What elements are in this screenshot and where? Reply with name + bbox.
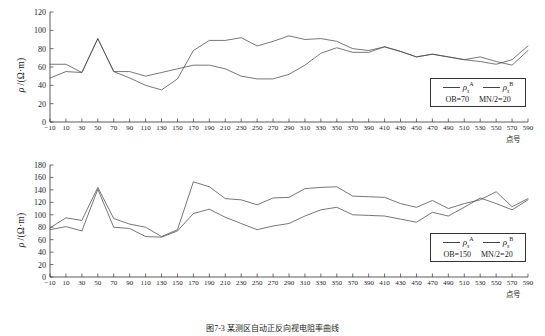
legend-item-rho-b-bottom: ρsB xyxy=(483,236,514,249)
series-line-ρsB xyxy=(50,189,528,237)
x-tick-label: 10 xyxy=(62,124,69,132)
legend-keys-bottom: ρsA ρsB xyxy=(431,234,525,249)
x-tick-label: 470 xyxy=(427,279,438,287)
x-tick-label: 510 xyxy=(459,279,470,287)
legend-conditions-bottom: OB=150 MN/2=20 xyxy=(431,249,525,261)
x-tick-label: 270 xyxy=(268,124,279,132)
x-tick-label: 10 xyxy=(62,279,69,287)
x-tick-label: 570 xyxy=(507,279,518,287)
series-line-ρsA xyxy=(50,182,528,237)
x-tick-label: 550 xyxy=(491,279,502,287)
legend-label-b-bottom: ρsB xyxy=(503,236,514,249)
legend-label-b-top: ρsB xyxy=(503,81,514,94)
legend-condition-mn-top: MN/2=20 xyxy=(479,95,511,104)
x-tick-label: 350 xyxy=(332,124,343,132)
legend-line-icon-b-bottom xyxy=(483,242,500,243)
legend-label-a-bottom: ρsA xyxy=(463,236,474,249)
x-tick-label: 570 xyxy=(507,124,518,132)
x-tick-label: 170 xyxy=(188,279,199,287)
legend-label-a-top: ρsA xyxy=(463,81,474,94)
legend-item-rho-b-top: ρsB xyxy=(483,81,514,94)
legend-condition-ob-bottom: OB=150 xyxy=(443,250,471,259)
series-line-ρsA xyxy=(50,39,528,79)
x-tick-label: 350 xyxy=(332,279,343,287)
x-tick-label: 430 xyxy=(395,124,406,132)
x-tick-label: 550 xyxy=(491,124,502,132)
x-tick-label: 530 xyxy=(475,124,486,132)
x-tick-label: −10 xyxy=(45,279,56,287)
x-tick-label: 250 xyxy=(252,124,263,132)
legend-keys-top: ρsA ρsB xyxy=(431,79,525,94)
legend-item-rho-a-top: ρsA xyxy=(443,81,474,94)
x-tick-label: 90 xyxy=(126,279,133,287)
x-tick-label: 190 xyxy=(204,279,215,287)
x-axis-label-bottom: 点号 xyxy=(506,288,520,299)
x-tick-label: 50 xyxy=(94,279,101,287)
x-tick-label: 50 xyxy=(94,124,101,132)
x-tick-label: 490 xyxy=(443,124,454,132)
x-tick-label: 370 xyxy=(347,124,358,132)
x-tick-label: 430 xyxy=(395,279,406,287)
legend-conditions-top: OB=70 MN/2=20 xyxy=(431,94,525,106)
figure-caption: 图7-3 某测区自动正反向视电阻率曲线 xyxy=(0,322,545,333)
x-tick-label: 70 xyxy=(110,279,117,287)
x-tick-label: 330 xyxy=(316,124,327,132)
x-tick-label: 450 xyxy=(411,279,422,287)
x-tick-label: 70 xyxy=(110,124,117,132)
legend-bottom: ρsA ρsB OB=150 MN/2=20 xyxy=(430,233,526,262)
x-tick-label: 310 xyxy=(300,124,311,132)
legend-line-icon-a-bottom xyxy=(443,242,460,243)
x-tick-label: 270 xyxy=(268,279,279,287)
legend-item-rho-a-bottom: ρsA xyxy=(443,236,474,249)
chart-panel-top: ρ /(Ω·m) 020406080100120 −10103050709011… xyxy=(0,0,545,150)
x-tick-label: 330 xyxy=(316,279,327,287)
x-tick-label: 110 xyxy=(140,279,150,287)
x-tick-label: 590 xyxy=(523,124,534,132)
x-tick-label: 390 xyxy=(363,279,374,287)
x-axis-label-top: 点号 xyxy=(506,133,520,144)
x-tick-label: 150 xyxy=(172,279,183,287)
x-tick-label: 410 xyxy=(379,124,390,132)
legend-condition-ob-top: OB=70 xyxy=(445,95,469,104)
x-tick-label: 230 xyxy=(236,279,247,287)
x-tick-label: 290 xyxy=(284,279,295,287)
legend-condition-mn-bottom: MN/2=20 xyxy=(481,250,513,259)
x-tick-label: 30 xyxy=(78,124,85,132)
x-tick-label: 250 xyxy=(252,279,263,287)
x-tick-label: 210 xyxy=(220,279,231,287)
x-tick-label: 490 xyxy=(443,279,454,287)
x-tick-label: 110 xyxy=(140,124,150,132)
x-tick-label: 130 xyxy=(156,124,167,132)
x-tick-label: 150 xyxy=(172,124,183,132)
x-tick-label: −10 xyxy=(45,124,56,132)
x-tick-label: 130 xyxy=(156,279,167,287)
chart-panel-bottom: ρ /(Ω·m) 020406080100120140160180 −10103… xyxy=(0,155,545,305)
x-tick-label: 90 xyxy=(126,124,133,132)
x-tick-label: 190 xyxy=(204,124,215,132)
x-tick-label: 230 xyxy=(236,124,247,132)
x-tick-label: 210 xyxy=(220,124,231,132)
x-tick-label: 510 xyxy=(459,124,470,132)
figure-container: ρ /(Ω·m) 020406080100120 −10103050709011… xyxy=(0,0,545,336)
x-tick-label: 310 xyxy=(300,279,311,287)
x-tick-label: 470 xyxy=(427,124,438,132)
x-tick-label: 30 xyxy=(78,279,85,287)
legend-line-icon-a-top xyxy=(443,87,460,88)
legend-top: ρsA ρsB OB=70 MN/2=20 xyxy=(430,78,526,107)
x-tick-label: 450 xyxy=(411,124,422,132)
x-tick-label: 410 xyxy=(379,279,390,287)
x-tick-label: 370 xyxy=(347,279,358,287)
x-tick-label: 290 xyxy=(284,124,295,132)
x-tick-label: 170 xyxy=(188,124,199,132)
legend-line-icon-b-top xyxy=(483,87,500,88)
x-tick-label: 530 xyxy=(475,279,486,287)
x-tick-label: 590 xyxy=(523,279,534,287)
x-tick-label: 390 xyxy=(363,124,374,132)
